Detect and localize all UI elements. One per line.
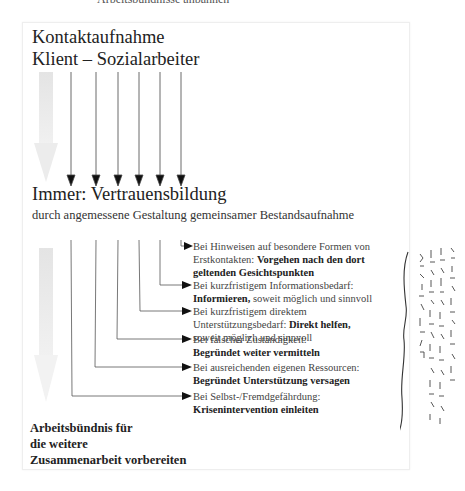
branch-action: Direkt helfen, xyxy=(289,319,351,330)
branch-action: Begründet weiter vermitteln xyxy=(193,347,320,358)
branch-action: Krisenintervention einleiten xyxy=(193,404,319,415)
large-down-arrow-icon xyxy=(34,248,58,402)
branch-condition: Bei falscher Zuständigkeit: xyxy=(193,333,373,346)
large-down-arrow-icon xyxy=(34,72,58,182)
branch-condition: Bei Selbst-/Fremdgefährdung: xyxy=(193,390,373,403)
branch-action: Begründet Unterstützung versagen xyxy=(193,375,350,386)
branch-action: Informieren, xyxy=(193,293,250,304)
branch-item: Bei Hinweisen auf besondere Formen von E… xyxy=(193,240,373,279)
branch-condition: Bei ausreichenden eigenen Ressourcen: xyxy=(193,361,373,374)
branch-suffix: soweit möglich und sinnvoll xyxy=(253,293,372,304)
outcome-line: die weitere xyxy=(30,436,186,452)
center-subheading: durch angemessene Gestaltung gemeinsamer… xyxy=(32,208,354,223)
branch-item: Bei ausreichenden eigenen Ressourcen: Be… xyxy=(193,361,373,387)
handwritten-annotation xyxy=(400,248,462,438)
branch-item: Bei Selbst-/Fremdgefährdung: Kriseninter… xyxy=(193,390,373,416)
branch-item: Bei falscher Zuständigkeit: Begründet we… xyxy=(193,333,373,359)
branch-item: Bei kurzfristigem Informationsbedarf: In… xyxy=(193,279,373,305)
outcome-text: Arbeitsbündnis für die weitere Zusammena… xyxy=(30,420,186,468)
outcome-line: Arbeitsbündnis für xyxy=(30,420,186,436)
center-heading: Immer: Vertrauensbildung xyxy=(32,183,226,205)
outcome-line: Zusammenarbeit vorbereiten xyxy=(30,452,186,468)
branch-condition: Bei kurzfristigem Informationsbedarf: xyxy=(193,279,373,292)
